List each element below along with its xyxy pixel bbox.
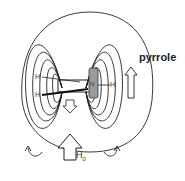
hydrogen-label-left-top: H (35, 73, 40, 80)
applied-field-subscript: 0 (83, 156, 86, 162)
induced-field-arrow-icon (63, 100, 77, 113)
field-line-left-1 (26, 45, 62, 129)
nitrogen-label: N (90, 81, 94, 88)
hydrogen-label-left-bottom: H (35, 91, 40, 98)
hydrogen-label-right: H (110, 81, 115, 88)
ring-current-diagram (0, 0, 185, 181)
applied-field-label: H0 (76, 150, 86, 162)
field-line-left-4 (47, 68, 62, 109)
molecule-label: pyrrole (139, 51, 176, 63)
deshielding-field-arrow-icon (125, 67, 137, 98)
